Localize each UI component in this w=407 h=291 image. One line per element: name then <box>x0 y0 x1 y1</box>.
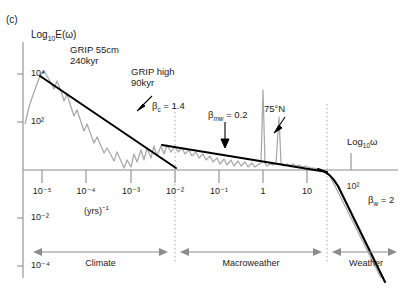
spectral-energy-figure <box>0 0 407 291</box>
annotation-beta-macroweather: βmw = 0.2 <box>208 110 248 122</box>
x-tick-label-minus5: 10⁻⁵ <box>24 186 60 196</box>
annotation-grip-low-line1: GRIP 55cm <box>70 44 119 55</box>
x-axis-units-label: (yrs)−1 <box>84 205 109 216</box>
x-tick-label-1: 1 <box>245 186 281 196</box>
annotation-latitude-peak: 75°N <box>264 104 285 115</box>
annotation-grip-low-line2: 240kyr <box>70 55 99 66</box>
panel-label: (c) <box>6 14 18 25</box>
annotation-grip-low: GRIP 55cm 240kyr <box>70 45 119 66</box>
x-axis-title: Log10ω <box>347 137 377 149</box>
fit-line-macroweather <box>162 145 327 172</box>
regime-span-arrows <box>33 248 397 256</box>
y-axis-ticks <box>17 74 23 266</box>
regime-label-weather: Weather <box>334 258 398 268</box>
annotation-grip-high-line2: 90kyr <box>131 77 154 88</box>
y-tick-label-minus2: 10⁻² <box>31 212 49 222</box>
x-tick-label-minus4: 10⁻⁴ <box>68 186 104 196</box>
y-axis-title: Log10E(ω) <box>31 29 76 43</box>
regime-label-climate: Climate <box>35 258 166 268</box>
annotation-grip-high-line1: GRIP high <box>131 66 175 77</box>
regime-label-macroweather: Macroweather <box>182 258 320 268</box>
fit-line-climate <box>40 76 176 168</box>
x-tick-label-10: 10 <box>289 186 325 196</box>
y-tick-label-2: 10² <box>31 116 44 126</box>
x-tick-label-minus2: 10⁻² <box>157 186 193 196</box>
annotation-grip-high: GRIP high 90kyr <box>131 67 175 88</box>
x-tick-label-100: 10² <box>340 181 366 191</box>
annotation-beta-weather: βw = 2 <box>368 195 394 207</box>
annotation-beta-climate: βc = 1.4 <box>152 101 185 113</box>
x-tick-label-minus1: 10⁻¹ <box>201 186 237 196</box>
y-tick-label-4: 10⁴ <box>31 68 45 78</box>
x-tick-label-minus3: 10⁻³ <box>113 186 149 196</box>
